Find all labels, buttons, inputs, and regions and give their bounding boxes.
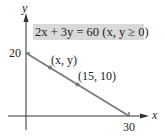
point-specific-label: (15, 10) (78, 70, 116, 82)
y-axis-label: y (22, 2, 27, 14)
y-intercept-label: 20 (9, 47, 21, 59)
x-intercept-label: 30 (123, 121, 135, 133)
point-15-10 (76, 83, 80, 87)
x-axis-arrow-icon (140, 114, 149, 119)
equation-label: 2x + 3y = 60 (x, y ≥ 0) (35, 25, 149, 39)
point-general-label: (x, y) (51, 54, 77, 66)
x-axis-label: x (152, 109, 157, 121)
